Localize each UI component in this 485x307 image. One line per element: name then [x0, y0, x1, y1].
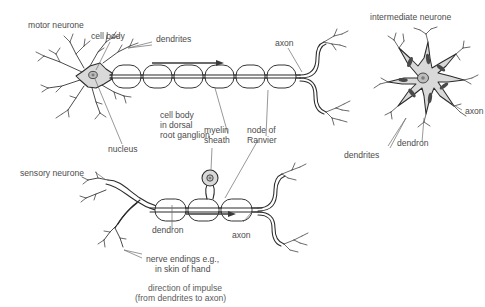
motor-neurone-myelin-sheath	[112, 65, 296, 88]
label-dendrites-intermediate: dendrites	[344, 150, 379, 160]
label-nerve-endings-2: in skin of hand	[155, 264, 211, 274]
intermediate-neurone-nucleolus	[421, 76, 425, 79]
label-node-1: node of	[247, 125, 276, 135]
sensory-neurone-group	[80, 163, 308, 252]
sensory-neurone-myelin-sheath	[155, 199, 252, 221]
label-myelin-2: sheath	[204, 135, 230, 145]
intermediate-neurone-group	[374, 27, 478, 127]
label-nerve-endings-1: nerve endings e.g.,	[146, 254, 219, 264]
label-cell-body-ganglion-1: cell body	[160, 110, 195, 120]
label-motor-neurone: motor neurone	[28, 20, 84, 30]
dorsal-root-ganglion-cell-body	[202, 170, 218, 199]
caption-line-2: (from dendrites to axon)	[135, 293, 226, 303]
label-axon-motor: axon	[275, 38, 294, 48]
label-intermediate-neurone: intermediate neurone	[370, 12, 451, 22]
neurone-diagram: motor neurone cell body dendrites axon i…	[0, 0, 485, 307]
label-dendron-sensory: dendron	[152, 225, 184, 235]
label-dendrites: dendrites	[156, 34, 191, 44]
label-dendron-intermediate: dendron	[397, 138, 429, 148]
sensory-neurone-axon-terminal	[258, 163, 308, 252]
label-sensory-neurone: sensory neurone	[20, 168, 84, 178]
label-nucleus: nucleus	[108, 144, 138, 154]
motor-neurone-nucleolus	[91, 74, 94, 77]
label-axon-intermediate: axon	[465, 106, 484, 116]
label-myelin-1: myelin	[204, 125, 229, 135]
label-node-2: Ranvier	[247, 135, 277, 145]
label-cell-body-ganglion-2: in dorsal	[160, 120, 193, 130]
motor-neurone-axon-terminal	[300, 29, 350, 125]
label-cell-body-ganglion-3: root ganglion	[160, 130, 210, 140]
caption-line-1: direction of impulse	[148, 283, 222, 293]
text-labels: motor neurone cell body dendrites axon i…	[20, 12, 484, 303]
label-axon-sensory: axon	[232, 230, 251, 240]
label-cell-body: cell body	[91, 31, 126, 41]
